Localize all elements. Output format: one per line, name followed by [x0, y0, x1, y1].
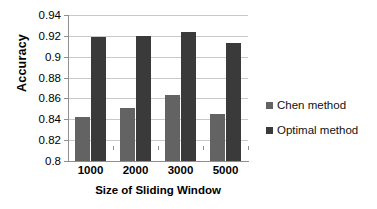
y-tick-label: 0.86 — [21, 92, 61, 104]
y-tick-label: 0.94 — [21, 9, 61, 21]
y-tick-mark — [64, 36, 68, 37]
x-tick-label: 1000 — [69, 164, 113, 176]
legend-item[interactable]: Chen method — [266, 99, 358, 111]
bar-chen-method-2000 — [120, 108, 135, 161]
bars-group — [68, 15, 248, 161]
bar-chen-method-3000 — [165, 95, 180, 161]
y-tick-mark — [64, 119, 68, 120]
x-tick-label: 2000 — [114, 164, 158, 176]
bar-optimal-method-1000 — [91, 37, 106, 161]
bar-optimal-method-5000 — [226, 43, 241, 161]
y-tick-label: 0.92 — [21, 30, 61, 42]
y-tick-mark — [64, 161, 68, 162]
bar-chen-method-5000 — [210, 114, 225, 161]
y-tick-mark — [64, 15, 68, 16]
y-axis-line — [68, 15, 69, 161]
square-marker-icon — [266, 127, 273, 134]
legend-label: Optimal method — [277, 124, 358, 136]
x-tick-mark — [158, 146, 159, 150]
y-tick-mark — [64, 98, 68, 99]
plot-area — [68, 15, 248, 161]
x-axis-line — [68, 161, 249, 162]
y-tick-label: 0.84 — [21, 113, 61, 125]
y-tick-label: 0.82 — [21, 134, 61, 146]
y-axis-title: Accuracy — [15, 3, 29, 123]
x-tick-label: 5000 — [204, 164, 248, 176]
legend: Chen methodOptimal method — [266, 99, 358, 136]
y-tick-label: 0.9 — [21, 51, 61, 63]
legend-label: Chen method — [277, 99, 346, 111]
bar-chart: Accuracy 0.940.920.90.880.860.840.820.8 … — [0, 0, 377, 209]
bar-chen-method-1000 — [75, 117, 90, 161]
bar-optimal-method-3000 — [181, 32, 196, 161]
x-axis-title: Size of Sliding Window — [58, 184, 258, 196]
x-tick-mark — [248, 146, 249, 150]
legend-item[interactable]: Optimal method — [266, 124, 358, 136]
y-tick-label: 0.8 — [21, 155, 61, 167]
square-marker-icon — [266, 102, 273, 109]
y-tick-mark — [64, 78, 68, 79]
y-tick-label: 0.88 — [21, 72, 61, 84]
y-tick-mark — [64, 57, 68, 58]
bar-optimal-method-2000 — [136, 36, 151, 161]
x-tick-label: 3000 — [159, 164, 203, 176]
y-tick-mark — [64, 140, 68, 141]
x-tick-mark — [113, 146, 114, 150]
x-tick-mark — [203, 146, 204, 150]
